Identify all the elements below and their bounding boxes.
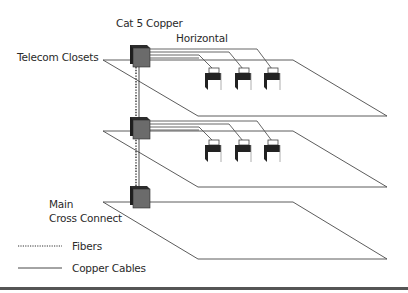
telecom-closet-icon-middle [130,117,150,139]
horizontal-cables-top [150,49,272,69]
bottom-rule [0,287,408,290]
outlet-icon [264,140,280,162]
outlets-top [205,68,280,90]
label-telecom-closets: Telecom Closets [17,51,98,63]
outlet-icon [205,68,221,90]
main-cross-connect-icon [130,186,150,208]
outlet-icon [264,68,280,90]
telecom-closet-icon-top [130,45,150,67]
legend-copper-label: Copper Cables [72,262,146,274]
outlets-middle [205,140,280,162]
label-cross-connect: Cross Connect [49,212,122,224]
label-main: Main [49,198,73,210]
floor-plane-bottom [103,202,387,259]
label-horizontal: Horizontal [176,32,228,44]
legend-fibers-label: Fibers [72,240,102,252]
label-cat5-copper: Cat 5 Copper [116,17,183,29]
outlet-icon [235,140,251,162]
outlet-icon [205,140,221,162]
outlet-icon [235,68,251,90]
